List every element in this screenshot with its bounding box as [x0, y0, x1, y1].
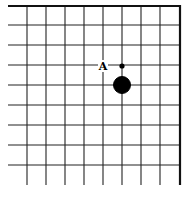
black-stone — [114, 77, 131, 94]
board-edges — [8, 5, 181, 185]
go-board: A — [0, 0, 184, 201]
board-grid — [8, 6, 180, 185]
point-label-a: A — [98, 60, 108, 73]
small-dot-marker — [119, 63, 124, 68]
markers-layer: A — [98, 60, 125, 73]
stones-layer — [114, 77, 131, 94]
